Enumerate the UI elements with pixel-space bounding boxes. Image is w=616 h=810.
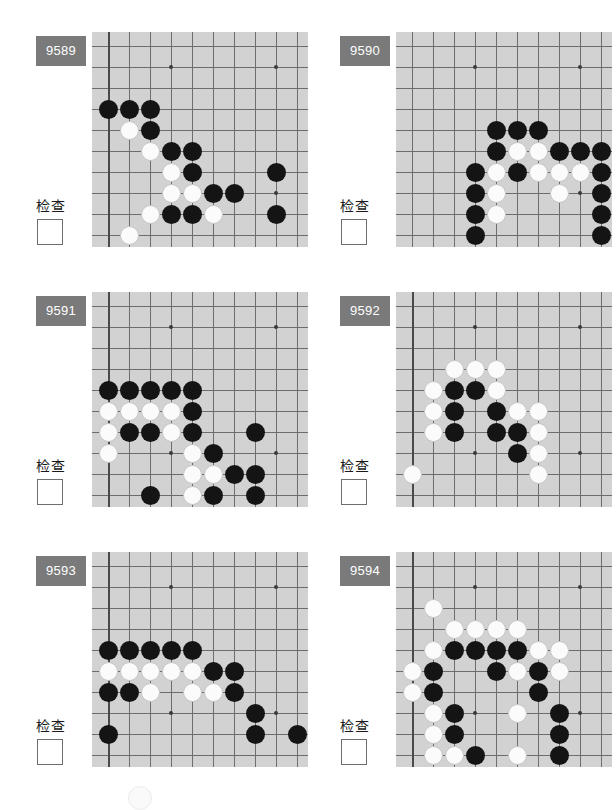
white-stone[interactable] xyxy=(424,599,443,618)
white-stone[interactable] xyxy=(120,226,139,245)
black-stone[interactable] xyxy=(487,641,506,660)
check-checkbox[interactable] xyxy=(37,479,63,505)
white-stone[interactable] xyxy=(120,402,139,421)
black-stone[interactable] xyxy=(204,486,223,505)
check-checkbox[interactable] xyxy=(37,739,63,765)
black-stone[interactable] xyxy=(487,423,506,442)
black-stone[interactable] xyxy=(550,725,569,744)
black-stone[interactable] xyxy=(445,423,464,442)
black-stone[interactable] xyxy=(529,683,548,702)
white-stone[interactable] xyxy=(141,402,160,421)
go-board[interactable] xyxy=(396,552,612,767)
white-stone[interactable] xyxy=(403,662,422,681)
white-stone[interactable] xyxy=(529,444,548,463)
white-stone[interactable] xyxy=(445,620,464,639)
black-stone[interactable] xyxy=(246,486,265,505)
white-stone[interactable] xyxy=(466,620,485,639)
black-stone[interactable] xyxy=(466,226,485,245)
black-stone[interactable] xyxy=(183,423,202,442)
white-stone[interactable] xyxy=(183,184,202,203)
white-stone[interactable] xyxy=(487,205,506,224)
black-stone[interactable] xyxy=(445,725,464,744)
white-stone[interactable] xyxy=(424,746,443,765)
white-stone[interactable] xyxy=(508,662,527,681)
black-stone[interactable] xyxy=(141,641,160,660)
white-stone[interactable] xyxy=(162,163,181,182)
white-stone[interactable] xyxy=(445,360,464,379)
black-stone[interactable] xyxy=(120,423,139,442)
black-stone[interactable] xyxy=(183,142,202,161)
black-stone[interactable] xyxy=(592,205,611,224)
go-board[interactable] xyxy=(396,292,612,507)
white-stone[interactable] xyxy=(141,662,160,681)
black-stone[interactable] xyxy=(141,423,160,442)
black-stone[interactable] xyxy=(246,465,265,484)
white-stone[interactable] xyxy=(466,767,485,768)
black-stone[interactable] xyxy=(592,226,611,245)
black-stone[interactable] xyxy=(508,423,527,442)
white-stone[interactable] xyxy=(204,465,223,484)
black-stone[interactable] xyxy=(183,205,202,224)
white-stone[interactable] xyxy=(508,142,527,161)
go-board[interactable] xyxy=(92,32,308,247)
white-stone[interactable] xyxy=(550,662,569,681)
black-stone[interactable] xyxy=(204,444,223,463)
black-stone[interactable] xyxy=(445,704,464,723)
white-stone[interactable] xyxy=(529,163,548,182)
black-stone[interactable] xyxy=(508,121,527,140)
white-stone[interactable] xyxy=(183,662,202,681)
white-stone[interactable] xyxy=(204,205,223,224)
white-stone[interactable] xyxy=(445,767,464,768)
white-stone[interactable] xyxy=(445,746,464,765)
black-stone[interactable] xyxy=(487,402,506,421)
white-stone[interactable] xyxy=(508,704,527,723)
black-stone[interactable] xyxy=(550,142,569,161)
black-stone[interactable] xyxy=(99,641,118,660)
white-stone[interactable] xyxy=(508,402,527,421)
black-stone[interactable] xyxy=(204,662,223,681)
black-stone[interactable] xyxy=(225,683,244,702)
black-stone[interactable] xyxy=(592,184,611,203)
black-stone[interactable] xyxy=(246,704,265,723)
go-board[interactable] xyxy=(92,292,308,507)
white-stone[interactable] xyxy=(162,402,181,421)
black-stone[interactable] xyxy=(529,662,548,681)
black-stone[interactable] xyxy=(162,142,181,161)
white-stone[interactable] xyxy=(162,423,181,442)
white-stone[interactable] xyxy=(183,465,202,484)
white-stone[interactable] xyxy=(487,381,506,400)
black-stone[interactable] xyxy=(225,662,244,681)
black-stone[interactable] xyxy=(424,683,443,702)
black-stone[interactable] xyxy=(529,121,548,140)
white-stone[interactable] xyxy=(529,465,548,484)
white-stone[interactable] xyxy=(424,402,443,421)
black-stone[interactable] xyxy=(424,662,443,681)
white-stone[interactable] xyxy=(508,620,527,639)
black-stone[interactable] xyxy=(99,683,118,702)
white-stone[interactable] xyxy=(120,121,139,140)
black-stone[interactable] xyxy=(466,641,485,660)
black-stone[interactable] xyxy=(120,641,139,660)
black-stone[interactable] xyxy=(120,683,139,702)
black-stone[interactable] xyxy=(225,184,244,203)
check-checkbox[interactable] xyxy=(37,219,63,245)
white-stone[interactable] xyxy=(487,620,506,639)
white-stone[interactable] xyxy=(141,683,160,702)
white-stone[interactable] xyxy=(403,465,422,484)
white-stone[interactable] xyxy=(487,184,506,203)
black-stone[interactable] xyxy=(487,767,506,768)
white-stone[interactable] xyxy=(550,641,569,660)
black-stone[interactable] xyxy=(466,205,485,224)
white-stone[interactable] xyxy=(162,184,181,203)
white-stone[interactable] xyxy=(162,662,181,681)
white-stone[interactable] xyxy=(529,142,548,161)
black-stone[interactable] xyxy=(466,163,485,182)
white-stone[interactable] xyxy=(487,163,506,182)
black-stone[interactable] xyxy=(99,381,118,400)
black-stone[interactable] xyxy=(204,184,223,203)
black-stone[interactable] xyxy=(99,100,118,119)
black-stone[interactable] xyxy=(487,121,506,140)
white-stone[interactable] xyxy=(571,163,590,182)
black-stone[interactable] xyxy=(183,381,202,400)
black-stone[interactable] xyxy=(141,100,160,119)
